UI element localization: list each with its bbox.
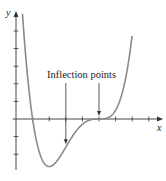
chart: y x Inflection points [0,0,166,181]
annotation-inflection-points: Inflection points [47,69,116,80]
y-axis-arrow [14,11,19,17]
function-curve [22,14,132,167]
x-axis-arrow [157,117,163,122]
y-axis-label: y [5,7,11,18]
annotation-arrowhead [97,111,101,116]
x-axis-label: x [156,122,162,133]
